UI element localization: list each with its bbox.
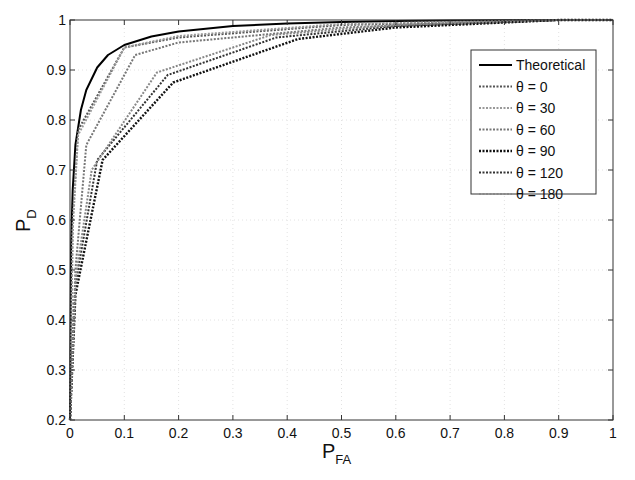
x-tick-label: 0	[66, 425, 74, 441]
y-tick-label: 0.6	[47, 212, 67, 228]
x-axis-label: PFA	[322, 440, 352, 467]
y-tick-label: 0.8	[47, 112, 67, 128]
legend-label: θ = 180	[516, 186, 563, 202]
legend-label: θ = 60	[516, 122, 556, 138]
legend-label: θ = 0	[516, 79, 548, 95]
x-tick-label: 0.2	[169, 425, 189, 441]
legend-label: θ = 120	[516, 165, 563, 181]
x-tick-label: 0.5	[332, 425, 352, 441]
y-tick-label: 1	[58, 12, 66, 28]
x-tick-label: 0.7	[440, 425, 460, 441]
x-tick-label: 0.8	[495, 425, 515, 441]
y-tick-labels: 0.20.30.40.50.60.70.80.91	[47, 12, 67, 428]
y-tick-label: 0.7	[47, 162, 67, 178]
x-tick-label: 0.9	[549, 425, 569, 441]
x-tick-labels: 00.10.20.30.40.50.60.70.80.91	[66, 425, 617, 441]
y-tick-label: 0.4	[47, 312, 67, 328]
x-tick-label: 0.1	[115, 425, 135, 441]
y-tick-label: 0.2	[47, 412, 67, 428]
roc-chart: 00.10.20.30.40.50.60.70.80.91 0.20.30.40…	[0, 0, 635, 480]
x-tick-label: 1	[609, 425, 617, 441]
y-tick-label: 0.5	[47, 262, 67, 278]
x-tick-label: 0.3	[223, 425, 243, 441]
legend-label: Theoretical	[516, 57, 585, 73]
legend-label: θ = 30	[516, 100, 556, 116]
y-axis-label: PD	[12, 209, 39, 232]
legend: Theoreticalθ = 0θ = 30θ = 60θ = 90θ = 12…	[471, 50, 596, 202]
y-tick-label: 0.9	[47, 62, 67, 78]
y-tick-label: 0.3	[47, 362, 67, 378]
x-tick-label: 0.4	[277, 425, 297, 441]
x-tick-label: 0.6	[386, 425, 406, 441]
legend-label: θ = 90	[516, 143, 556, 159]
